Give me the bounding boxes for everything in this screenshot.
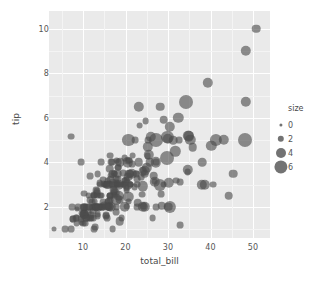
x-tick-label: 30 bbox=[148, 243, 188, 252]
data-point bbox=[140, 170, 149, 179]
data-point bbox=[158, 191, 165, 198]
data-point bbox=[240, 96, 250, 106]
data-point bbox=[125, 169, 134, 178]
data-point bbox=[131, 184, 138, 191]
data-point bbox=[252, 25, 261, 34]
data-point bbox=[149, 215, 156, 222]
data-point bbox=[108, 159, 115, 166]
gridline-horizontal-minor bbox=[49, 229, 270, 230]
data-point bbox=[86, 172, 93, 179]
x-tick-label: 10 bbox=[63, 243, 103, 252]
data-point bbox=[80, 220, 87, 227]
data-point bbox=[78, 159, 85, 166]
legend-size-marker bbox=[276, 148, 286, 158]
data-point bbox=[238, 133, 252, 147]
x-tick-label: 40 bbox=[191, 243, 231, 252]
gridline-vertical bbox=[211, 11, 212, 238]
y-tick-label: 4 bbox=[9, 158, 49, 167]
data-point bbox=[198, 158, 207, 167]
data-point bbox=[241, 46, 251, 56]
data-point bbox=[179, 95, 193, 109]
data-point bbox=[109, 225, 116, 232]
data-point bbox=[106, 192, 113, 199]
y-axis-label: tip bbox=[11, 99, 21, 139]
data-point bbox=[75, 206, 80, 211]
data-point bbox=[177, 179, 184, 186]
y-tick-label: 8 bbox=[9, 69, 49, 78]
data-point bbox=[94, 213, 101, 220]
data-point bbox=[189, 143, 198, 152]
legend-entry-label: 4 bbox=[288, 149, 293, 158]
data-point bbox=[183, 164, 193, 174]
gridline-horizontal-minor bbox=[49, 51, 270, 52]
data-point bbox=[98, 159, 105, 166]
data-point bbox=[113, 209, 120, 216]
data-point bbox=[93, 187, 100, 194]
x-axis-label: total_bill bbox=[49, 256, 270, 266]
data-point bbox=[225, 191, 234, 200]
data-point bbox=[142, 118, 149, 125]
data-point bbox=[209, 181, 216, 188]
legend-size-marker bbox=[278, 136, 284, 142]
data-point bbox=[80, 203, 87, 210]
data-point bbox=[89, 199, 96, 206]
data-point bbox=[68, 133, 75, 140]
legend-size-marker bbox=[279, 123, 282, 126]
data-point bbox=[51, 227, 56, 232]
data-point bbox=[133, 203, 140, 210]
data-point bbox=[103, 203, 110, 210]
data-point bbox=[173, 113, 183, 123]
data-point bbox=[125, 198, 132, 205]
data-point bbox=[136, 122, 143, 129]
gridline-horizontal bbox=[49, 29, 270, 30]
data-point bbox=[218, 135, 228, 145]
plot-panel bbox=[49, 11, 270, 238]
legend-entry-label: 2 bbox=[288, 135, 293, 144]
gridline-vertical-minor bbox=[189, 11, 190, 238]
gridline-vertical-minor bbox=[232, 11, 233, 238]
data-point bbox=[163, 177, 173, 187]
y-tick-label: 2 bbox=[9, 202, 49, 211]
data-point bbox=[229, 169, 238, 178]
data-point bbox=[177, 222, 184, 229]
legend-entry-label: 0 bbox=[288, 121, 293, 130]
scatter-plot-figure: 246810 1020304050 total_bill tip size 02… bbox=[0, 0, 325, 283]
legend-entry-label: 6 bbox=[288, 163, 293, 172]
data-point bbox=[200, 179, 210, 189]
data-point bbox=[134, 158, 143, 167]
data-point bbox=[122, 134, 134, 146]
data-point bbox=[117, 181, 124, 188]
legend-entry[interactable]: 4 bbox=[280, 146, 325, 160]
y-tick-label: 10 bbox=[9, 24, 49, 33]
data-point bbox=[103, 181, 110, 188]
legend-entry[interactable]: 6 bbox=[280, 160, 325, 174]
legend-entry[interactable]: 2 bbox=[280, 132, 325, 146]
legend-size-marker bbox=[274, 160, 287, 173]
data-point bbox=[68, 226, 75, 233]
legend-entry[interactable]: 0 bbox=[280, 118, 325, 132]
x-tick-label: 50 bbox=[233, 243, 273, 252]
gridline-horizontal-minor bbox=[49, 96, 270, 97]
data-point bbox=[164, 203, 173, 212]
data-point bbox=[70, 216, 77, 223]
data-point bbox=[139, 191, 146, 198]
x-tick-label: 20 bbox=[106, 243, 146, 252]
data-point bbox=[104, 215, 111, 222]
legend-title: size bbox=[288, 104, 304, 113]
gridline-horizontal bbox=[49, 73, 270, 74]
data-point bbox=[170, 146, 180, 156]
data-point bbox=[115, 217, 124, 226]
gridline-vertical bbox=[253, 11, 254, 238]
data-point bbox=[153, 203, 160, 210]
data-point bbox=[134, 101, 144, 111]
data-point bbox=[176, 137, 183, 144]
data-point bbox=[91, 226, 98, 233]
data-point bbox=[94, 170, 101, 177]
data-point bbox=[160, 115, 169, 124]
data-point bbox=[203, 77, 213, 87]
data-point bbox=[156, 102, 165, 111]
gridline-vertical-minor bbox=[62, 11, 63, 238]
